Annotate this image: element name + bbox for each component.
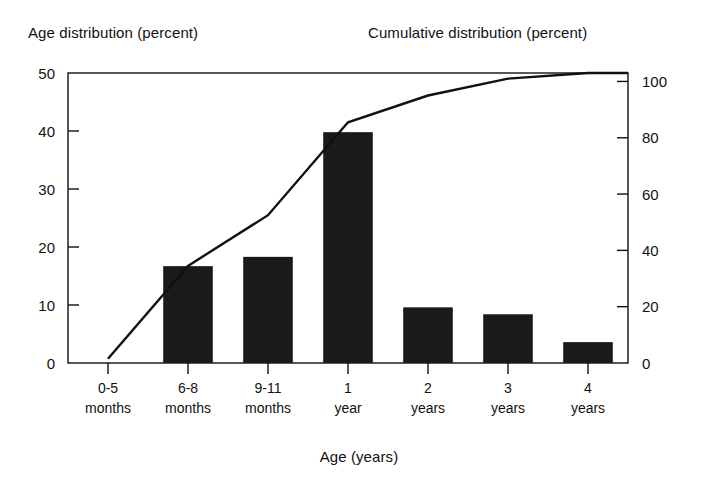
right-tick-label: 60 bbox=[642, 186, 659, 203]
right-tick-label: 80 bbox=[642, 129, 659, 146]
plot-area: 01020304050 020406080100 0-5months6-8mon… bbox=[0, 0, 718, 495]
left-tick-label: 40 bbox=[38, 123, 55, 140]
x-tick-label: 3 bbox=[504, 380, 512, 396]
x-tick-label: years bbox=[491, 400, 525, 416]
right-tick-label: 40 bbox=[642, 242, 659, 259]
right-axis-ticks bbox=[617, 81, 628, 306]
left-tick-label: 50 bbox=[38, 65, 55, 82]
x-tick-label: 2 bbox=[424, 380, 432, 396]
x-tick-label: 4 bbox=[584, 380, 592, 396]
left-axis-ticks bbox=[68, 131, 79, 305]
x-axis-ticks bbox=[108, 363, 588, 374]
bar bbox=[563, 342, 613, 363]
left-axis-tick-labels: 01020304050 bbox=[38, 65, 55, 372]
bar bbox=[403, 307, 453, 363]
x-tick-label: 6-8 bbox=[178, 380, 198, 396]
x-tick-label: months bbox=[245, 400, 291, 416]
right-tick-label: 100 bbox=[642, 73, 667, 90]
x-tick-label: year bbox=[334, 400, 362, 416]
x-tick-label: 1 bbox=[344, 380, 352, 396]
x-tick-label: months bbox=[85, 400, 131, 416]
bar-series bbox=[163, 132, 613, 363]
right-axis-tick-labels: 020406080100 bbox=[642, 73, 667, 372]
x-tick-label: 9-11 bbox=[255, 380, 282, 396]
bar bbox=[483, 314, 533, 363]
x-tick-label: years bbox=[411, 400, 445, 416]
left-tick-label: 30 bbox=[38, 181, 55, 198]
left-tick-label: 10 bbox=[38, 297, 55, 314]
left-tick-label: 20 bbox=[38, 239, 55, 256]
bar bbox=[243, 257, 293, 363]
x-tick-label: 0-5 bbox=[98, 380, 118, 396]
chart-figure: Age distribution (percent) Cumulative di… bbox=[0, 0, 718, 495]
x-axis-tick-labels: 0-5months6-8months9-11months1year2years3… bbox=[85, 380, 605, 416]
bar bbox=[323, 132, 373, 363]
right-tick-label: 0 bbox=[642, 355, 650, 372]
left-tick-label: 0 bbox=[47, 355, 55, 372]
x-tick-label: months bbox=[165, 400, 211, 416]
right-tick-label: 20 bbox=[642, 298, 659, 315]
bar bbox=[163, 266, 213, 363]
x-tick-label: years bbox=[571, 400, 605, 416]
